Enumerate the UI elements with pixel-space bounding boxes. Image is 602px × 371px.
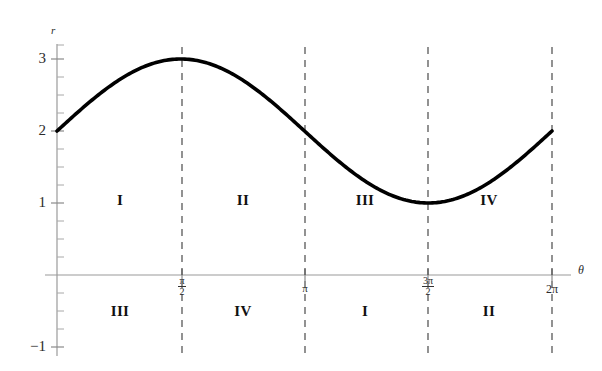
y-tick-label-2: 2 [26, 122, 46, 139]
region-label-above-1: I [100, 192, 140, 209]
region-label-below-2: IV [223, 303, 263, 320]
fraction-pi-over-2: π 2 [178, 276, 185, 297]
r-axis-label: r [51, 24, 55, 36]
region-label-below-1: III [100, 303, 140, 320]
region-label-below-3: I [345, 303, 385, 320]
region-label-below-4: II [469, 303, 509, 320]
y-minor-ticks [57, 45, 64, 329]
x-tick-label-pi-over-2: π 2 [162, 276, 202, 298]
y-tick-label-1: 1 [26, 194, 46, 211]
fraction-3pi-over-2: 3π 2 [422, 276, 434, 297]
y-tick-label-minus-1: −1 [18, 338, 46, 355]
plot-canvas [0, 0, 602, 371]
x-tick-label-3pi-over-2: 3π 2 [408, 276, 448, 298]
polar-function-plot: r θ 3 2 1 −1 π 2 π 3π 2 2π I II III IV I… [0, 0, 602, 371]
region-label-above-3: III [345, 192, 385, 209]
fraction-denominator: 2 [422, 287, 434, 297]
theta-axis-label: θ [578, 263, 584, 278]
fraction-denominator: 2 [178, 287, 185, 297]
y-tick-label-3: 3 [26, 50, 46, 67]
region-label-above-4: IV [469, 192, 509, 209]
region-label-above-2: II [223, 192, 263, 209]
x-tick-label-pi: π [285, 283, 325, 295]
x-tick-label-2pi: 2π [532, 283, 572, 296]
